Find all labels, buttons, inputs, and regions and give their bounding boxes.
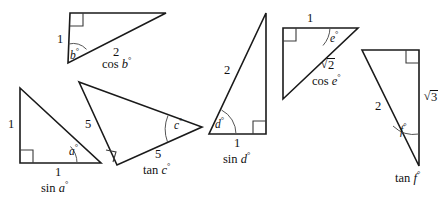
label-side-right-triangle-tan-f: √3 — [423, 89, 438, 103]
label-side-hypotenuse-triangle-cos-e: √2 — [320, 57, 335, 71]
label-side-base-triangle-sin-a: 1 — [55, 166, 61, 179]
label-expression-tan-c: tan c° — [143, 164, 170, 177]
sqrt-3-expression: √3 — [423, 89, 438, 103]
label-side-upper-triangle-tan-c: 5 — [85, 118, 91, 131]
cos-e-function: cos — [312, 74, 329, 88]
cos-b-function: cos — [102, 57, 119, 71]
radicand-cos-e: 2 — [327, 58, 336, 72]
degree-symbol-e: ° — [335, 29, 338, 39]
degree-symbol-a: ° — [75, 142, 78, 152]
degree-symbol-b: ° — [76, 46, 79, 56]
triangle-sin-d-outline — [209, 13, 266, 134]
label-expression-tan-f: tan f° — [395, 172, 420, 185]
label-side-1-triangle-cos-b: 1 — [57, 33, 63, 46]
sin-a-function: sin — [41, 181, 56, 195]
sqrt-2-expression: √2 — [320, 57, 335, 71]
right-angle-marker-cos-b — [70, 13, 83, 26]
label-side-lower-triangle-tan-c: 5 — [155, 148, 161, 161]
label-expression-sin-d: sin d° — [223, 153, 250, 166]
tan-f-function: tan — [395, 171, 410, 185]
label-side-left-triangle-tan-f: 2 — [375, 100, 381, 113]
degree-symbol-f: ° — [403, 121, 406, 131]
right-angle-marker-tan-f — [406, 50, 419, 63]
label-side-hypotenuse-triangle-sin-d: 2 — [224, 64, 230, 77]
label-angle-b: b° — [70, 50, 79, 62]
degree-symbol-sin-a: ° — [65, 179, 68, 189]
triangle-tan-f-group — [362, 50, 419, 166]
label-angle-d: d° — [215, 119, 224, 131]
right-angle-marker-sin-d — [253, 121, 266, 134]
label-side-top-triangle-cos-e: 1 — [307, 12, 313, 25]
triangle-sin-d-group — [209, 13, 266, 134]
angle-arc-e — [323, 28, 330, 46]
right-angle-marker-sin-a — [20, 150, 33, 163]
degree-symbol-cos-e: ° — [337, 72, 340, 82]
trigonometry-figure: 1 2 b° cos b° 1 1 a° sin a° 5 5 c° tan c… — [0, 0, 448, 202]
degree-symbol-d: ° — [221, 115, 224, 125]
radicand-tan-f: 3 — [430, 90, 439, 104]
label-expression-cos-b: cos b° — [102, 58, 131, 71]
degree-symbol-sin-d: ° — [247, 150, 250, 160]
label-angle-e: e° — [330, 33, 339, 45]
angle-arc-c — [165, 116, 168, 143]
label-side-base-triangle-sin-d: 1 — [234, 137, 240, 150]
label-angle-f: f° — [400, 125, 407, 137]
triangle-tan-c-outline — [79, 82, 202, 165]
label-angle-a: a° — [69, 146, 78, 158]
label-expression-cos-e: cos e° — [312, 75, 341, 88]
triangle-tan-c-group — [79, 82, 202, 165]
right-angle-marker-cos-e — [283, 28, 296, 41]
degree-symbol-tan-c: ° — [167, 161, 170, 171]
degree-symbol-c: ° — [179, 116, 182, 126]
degree-symbol-cos-b: ° — [128, 55, 131, 65]
sin-d-function: sin — [223, 152, 238, 166]
tan-c-function: tan — [143, 163, 158, 177]
label-side-vertical-triangle-sin-a: 1 — [8, 118, 14, 131]
degree-symbol-tan-f: ° — [417, 169, 420, 179]
label-expression-sin-a: sin a° — [41, 182, 68, 195]
label-angle-c: c° — [174, 120, 183, 132]
triangle-tan-f-outline — [362, 50, 419, 166]
